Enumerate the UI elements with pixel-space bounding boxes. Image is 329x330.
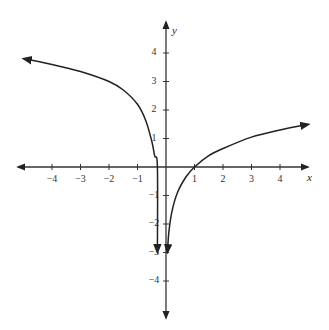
x-tick-label: −1 [132, 173, 143, 184]
x-tick-label: −4 [47, 173, 58, 184]
left-branch-curve [24, 59, 158, 253]
y-tick-label: −2 [149, 217, 160, 228]
x-tick-label: −2 [104, 173, 115, 184]
function-graph [0, 0, 329, 330]
x-tick-label: −3 [75, 173, 86, 184]
y-tick-label: 2 [152, 103, 157, 114]
x-tick-label: 2 [221, 173, 226, 184]
x-tick-label: 1 [192, 173, 197, 184]
y-tick-label: −3 [149, 246, 160, 257]
y-axis-label: y [172, 24, 177, 36]
y-tick-label: 1 [152, 132, 157, 143]
y-tick-label: 3 [152, 75, 157, 86]
y-tick-label: 4 [152, 46, 157, 57]
x-tick-label: 4 [278, 173, 283, 184]
x-tick-label: 3 [249, 173, 254, 184]
y-tick-label: −1 [149, 189, 160, 200]
x-axis-label: x [307, 171, 312, 183]
right-branch-curve [167, 124, 308, 252]
y-tick-label: −4 [149, 274, 160, 285]
